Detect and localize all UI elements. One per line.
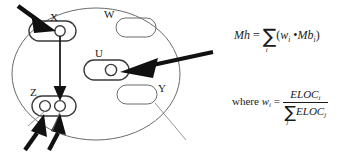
system-diagram: X W U Y Z bbox=[0, 0, 230, 155]
node-label-u: U bbox=[95, 48, 103, 59]
node-u-circle bbox=[105, 64, 116, 75]
node-w-box bbox=[116, 18, 156, 37]
node-u bbox=[84, 60, 129, 80]
formula2-where: where bbox=[232, 95, 259, 107]
formula2-sum-index: j bbox=[287, 118, 289, 126]
node-u-box bbox=[84, 60, 129, 80]
node-x-circle bbox=[55, 26, 65, 36]
node-z bbox=[32, 96, 76, 116]
figure-root: X W U Y Z Mh = ∑i(wi •Mbi) where wi = EL… bbox=[0, 0, 355, 155]
formula1-equals: = bbox=[253, 28, 260, 42]
node-z-circle-left bbox=[40, 101, 51, 112]
formula1-close-paren: ) bbox=[316, 28, 320, 42]
formula1-sum-index: i bbox=[266, 46, 268, 54]
node-label-y: Y bbox=[158, 83, 166, 94]
formula-mh: Mh = ∑i(wi •Mbi) bbox=[234, 28, 320, 47]
formula2-numerator-group: ELOCi bbox=[283, 88, 329, 102]
formula2-numerator: ELOC bbox=[290, 88, 318, 100]
node-label-x: X bbox=[50, 12, 58, 23]
arrow-x-to-z bbox=[54, 36, 67, 101]
formula2-equals: = bbox=[274, 95, 280, 107]
sigma-icon: ∑ bbox=[263, 24, 276, 48]
formula1-summation: ∑i bbox=[263, 28, 276, 47]
formula2-lhs-sub: i bbox=[269, 101, 271, 108]
node-w bbox=[116, 18, 156, 37]
formula1-lhs: Mh bbox=[234, 28, 250, 42]
formula-block: Mh = ∑i(wi •Mbi) where wi = ELOCi ∑jELOC… bbox=[232, 0, 355, 155]
formula2-denominator-group: ∑jELOCj bbox=[283, 103, 329, 120]
formula1-term1-sub: i bbox=[288, 35, 290, 44]
leader-lines bbox=[28, 103, 186, 140]
formula2-fraction: ELOCi ∑jELOCj bbox=[283, 88, 329, 120]
node-y-box bbox=[117, 85, 157, 104]
diagram-svg bbox=[0, 0, 230, 155]
formula2-denominator-sub: j bbox=[324, 111, 326, 118]
node-label-z: Z bbox=[30, 87, 37, 98]
formula2-lhs: w bbox=[262, 95, 269, 107]
formula2-denominator: ELOC bbox=[296, 105, 324, 117]
formula2-summation: ∑j bbox=[285, 105, 296, 120]
formula2-numerator-sub: i bbox=[318, 94, 320, 101]
node-y bbox=[117, 85, 157, 104]
arrow-into-u bbox=[120, 52, 213, 78]
formula1-term2: Mb bbox=[298, 28, 314, 42]
node-label-w: W bbox=[104, 9, 114, 20]
node-z-circle-right bbox=[55, 101, 66, 112]
formula-weight: where wi = ELOCi ∑jELOCj bbox=[232, 88, 328, 120]
